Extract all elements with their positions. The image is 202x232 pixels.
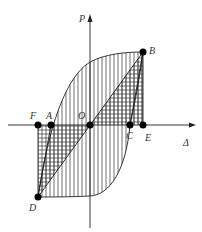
y-axis-label: P <box>79 14 85 24</box>
label-C: C <box>126 131 133 141</box>
label-O: O <box>78 111 85 121</box>
label-D: D <box>29 203 36 213</box>
x-axis-label: Δ <box>183 138 189 148</box>
y-axis-arrow-icon <box>88 14 93 22</box>
label-A: A <box>46 111 52 121</box>
label-F: F <box>30 111 36 121</box>
point-D <box>35 194 42 201</box>
label-B: B <box>149 46 155 56</box>
point-E <box>140 122 147 129</box>
label-E: E <box>145 133 151 143</box>
point-F <box>35 122 42 129</box>
point-O <box>87 122 94 129</box>
point-A <box>48 122 55 129</box>
hysteresis-diagram: P Δ B D F A O C E <box>0 0 202 232</box>
point-B <box>140 49 147 56</box>
point-C <box>127 122 134 129</box>
x-axis-arrow-icon <box>189 123 196 128</box>
